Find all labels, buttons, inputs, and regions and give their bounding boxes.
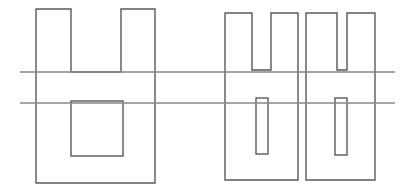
line-drawing	[0, 0, 410, 193]
comb-shape-left	[36, 9, 155, 183]
inner-rect-middle-lower	[256, 98, 268, 154]
inner-rect-right-lower	[335, 98, 347, 155]
comb-shape-left-outline	[36, 9, 155, 183]
inner-rect-left-lower	[71, 101, 123, 156]
comb-shape-middle	[225, 13, 298, 180]
comb-shape-middle-outline	[225, 13, 298, 180]
drawing-canvas	[0, 0, 410, 193]
comb-shape-right	[306, 13, 375, 180]
